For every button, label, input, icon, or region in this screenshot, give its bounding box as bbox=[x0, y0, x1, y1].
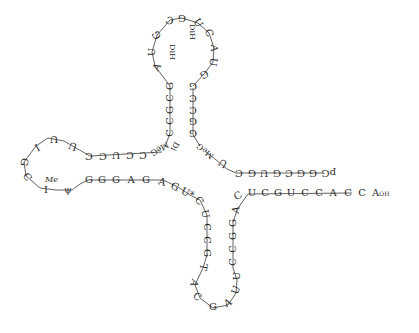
nucleotide: C bbox=[187, 93, 199, 103]
nucleotide: G bbox=[83, 175, 95, 185]
nucleotide: G bbox=[271, 168, 283, 178]
nucleotide: U bbox=[246, 188, 258, 198]
nucleotide: G bbox=[207, 302, 219, 312]
dihydro-label: DiH bbox=[168, 44, 176, 60]
nucleotide: U bbox=[199, 207, 211, 221]
nucleotide: G bbox=[246, 168, 258, 178]
nucleotide: C bbox=[165, 92, 175, 104]
nucleotide: C bbox=[202, 234, 212, 246]
nucleotide: C bbox=[97, 151, 109, 161]
nucleotide: A bbox=[230, 203, 242, 217]
nucleotide: C bbox=[299, 188, 311, 198]
nucleotide: C bbox=[313, 188, 325, 198]
nucleotide-dihydro-u: U bbox=[147, 46, 157, 58]
trna-cloverleaf-diagram: pG G G C G U G C U MeG G G C C G G U A C… bbox=[0, 0, 419, 333]
nucleotide: U bbox=[285, 188, 297, 198]
nucleotide: G bbox=[202, 247, 212, 259]
nucleotide: A bbox=[125, 175, 137, 185]
nucleotide: C bbox=[283, 168, 295, 178]
nucleotide: C bbox=[83, 151, 95, 161]
nucleotide: C bbox=[356, 188, 368, 198]
nucleotide: C bbox=[259, 188, 271, 198]
nucleotide: G bbox=[187, 81, 199, 91]
nucleotide: G bbox=[140, 175, 152, 185]
nucleotide: A bbox=[327, 188, 339, 198]
nucleotide: U bbox=[48, 134, 60, 144]
nucleotide: C bbox=[228, 243, 238, 255]
nucleotide: T bbox=[197, 260, 209, 274]
nucleotide: U bbox=[207, 55, 219, 69]
nucleotide: C bbox=[187, 105, 199, 115]
nucleotide: C bbox=[228, 256, 238, 268]
nucleotide: U bbox=[110, 150, 122, 160]
dihydro-label: DiH bbox=[188, 24, 196, 40]
methyl-label: Me bbox=[45, 176, 58, 184]
nucleotide: U bbox=[232, 270, 242, 282]
nucleotide: C bbox=[202, 221, 212, 233]
terminus-hydroxyl: OH bbox=[379, 190, 389, 197]
nucleotide: G bbox=[176, 13, 188, 23]
nucleotide: G bbox=[110, 175, 122, 185]
nucleotide: G bbox=[187, 128, 199, 138]
nucleotide: A bbox=[209, 42, 219, 54]
nucleotide-pseudouridine: ψ bbox=[62, 185, 74, 195]
nucleotide: G bbox=[96, 175, 108, 185]
nucleotide: C bbox=[165, 127, 175, 139]
nucleotide: G bbox=[165, 80, 175, 92]
nucleotide: U bbox=[258, 168, 270, 178]
nucleotide: G bbox=[228, 230, 238, 242]
nucleotide: C bbox=[137, 150, 149, 160]
acceptor-3prime-terminus: AOH bbox=[372, 188, 396, 198]
nucleotide: G bbox=[295, 168, 307, 178]
nucleotide: C bbox=[124, 150, 136, 160]
acceptor-5prime-terminus: pG bbox=[324, 168, 336, 178]
nucleotide: G bbox=[187, 116, 199, 126]
nucleotide: G bbox=[18, 155, 30, 169]
nucleotide: C bbox=[165, 115, 175, 127]
nucleotide: C bbox=[342, 188, 354, 198]
nucleotide-methyl-inosine: I bbox=[40, 185, 52, 195]
nucleotide: G bbox=[307, 168, 319, 178]
nucleotide: C bbox=[233, 168, 245, 178]
nucleotide: G bbox=[228, 217, 238, 229]
nucleotide: G bbox=[272, 188, 284, 198]
